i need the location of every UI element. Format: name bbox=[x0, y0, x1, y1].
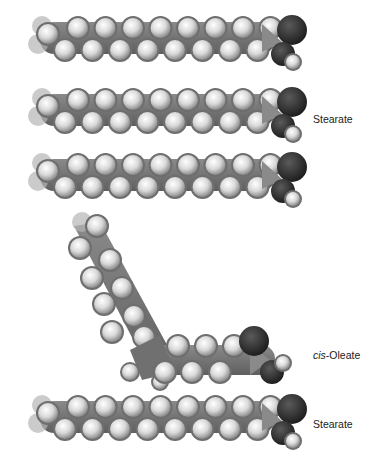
stearate-molecule-1 bbox=[28, 15, 307, 71]
stearate-label-1: Stearate bbox=[313, 113, 353, 125]
stearate-molecule-3 bbox=[28, 152, 307, 208]
stearate-molecule-2 bbox=[28, 87, 307, 143]
cis-oleate-molecule bbox=[68, 212, 292, 391]
cis-oleate-label: cis-Oleate bbox=[313, 349, 360, 361]
stearate-label-2: Stearate bbox=[313, 418, 353, 430]
fatty-acid-space-filling-diagram bbox=[0, 0, 375, 467]
stearate-molecule-4 bbox=[28, 394, 307, 450]
